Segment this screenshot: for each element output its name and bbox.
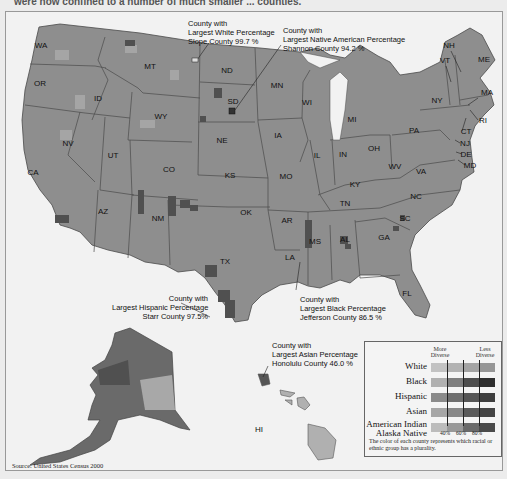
state-label-oh: OH — [368, 144, 380, 153]
state-label-ga: GA — [378, 233, 390, 242]
legend-swatch — [431, 363, 447, 372]
source-credit: Source: United States Census 2000 — [12, 462, 103, 469]
state-label-ut: UT — [108, 151, 119, 160]
slope-county-marker — [192, 58, 198, 62]
legend-swatch — [479, 378, 495, 387]
state-label-vt: VT — [440, 56, 450, 65]
state-label-nh: NH — [443, 41, 455, 50]
state-label-ar: AR — [281, 216, 292, 225]
state-label-ok: OK — [240, 208, 252, 217]
legend-swatch — [463, 408, 479, 417]
state-label-mn: MN — [271, 81, 284, 90]
state-label-nd: ND — [221, 66, 233, 75]
state-label-sd: SD — [227, 97, 238, 106]
state-label-tx: TX — [220, 257, 231, 266]
legend-swatch — [447, 408, 463, 417]
legend-swatch — [447, 378, 463, 387]
annotation-black: County with Largest Black Percentage Jef… — [300, 295, 386, 322]
legend-row-black: Black — [365, 377, 501, 391]
state-label-nj: NJ — [460, 139, 470, 148]
state-label-ca: CA — [27, 168, 39, 177]
state-label-ma: MA — [481, 88, 494, 97]
state-label-fl: FL — [402, 289, 412, 298]
legend-swatch — [463, 363, 479, 372]
state-label-va: VA — [416, 167, 427, 176]
state-label-ky: KY — [350, 180, 361, 189]
state-label-ne: NE — [216, 136, 227, 145]
state-label-ct: CT — [461, 127, 472, 136]
legend-swatch — [479, 408, 495, 417]
state-label-mt: MT — [144, 62, 156, 71]
legend-more-diverse: More Diverse — [425, 346, 455, 358]
legend-tick-40: 40% — [440, 430, 450, 436]
legend-swatch — [431, 393, 447, 402]
hawaii — [258, 374, 336, 460]
legend-tick-60: 60% — [456, 430, 466, 436]
state-label-al: AL — [340, 235, 350, 244]
state-label-hi: HI — [255, 425, 263, 434]
state-label-wi: WI — [302, 98, 312, 107]
state-label-de: DE — [460, 150, 471, 159]
state-label-ks: KS — [225, 171, 236, 180]
state-label-la: LA — [285, 253, 295, 262]
annotation-native: County with Largest Native American Perc… — [283, 26, 405, 53]
state-label-wa: WA — [35, 41, 48, 50]
legend-swatch — [447, 363, 463, 372]
legend-less-diverse: Less Diverse — [471, 346, 499, 358]
legend-swatch — [463, 378, 479, 387]
state-label-in: IN — [339, 150, 347, 159]
legend-note: The color of each county represents whic… — [369, 438, 497, 452]
legend-tick-line-40 — [447, 360, 448, 426]
annotation-white: County with Largest White Percentage Slo… — [188, 19, 275, 46]
state-label-mi: MI — [348, 115, 357, 124]
state-label-me: ME — [478, 55, 490, 64]
state-label-md: MD — [464, 161, 477, 170]
legend-tick-line-60 — [463, 360, 464, 426]
state-label-ri: RI — [479, 116, 487, 125]
legend-swatch — [431, 378, 447, 387]
state-label-sc: SC — [399, 214, 410, 223]
state-label-or: OR — [34, 79, 46, 88]
state-label-mo: MO — [280, 172, 293, 181]
legend-swatch — [479, 363, 495, 372]
state-label-tn: TN — [340, 199, 351, 208]
state-label-wy: WY — [155, 112, 169, 121]
legend-tick-80: 80% — [472, 430, 482, 436]
state-label-nc: NC — [410, 192, 422, 201]
annotation-hispanic: County with Largest Hispanic Percentage … — [112, 294, 208, 321]
legend-row-hispanic: Hispanic — [365, 392, 501, 406]
legend-tick-line-80 — [479, 360, 480, 426]
legend-row-white: White — [365, 362, 501, 376]
state-label-ny: NY — [431, 96, 443, 105]
shannon-county-marker — [229, 108, 235, 114]
legend-swatch — [479, 393, 495, 402]
state-label-ms: MS — [309, 237, 321, 246]
state-label-pa: PA — [409, 126, 420, 135]
legend-swatch — [463, 393, 479, 402]
state-label-nv: NV — [62, 139, 74, 148]
legend-swatch — [447, 393, 463, 402]
state-label-wv: WV — [389, 162, 403, 171]
state-label-id: ID — [94, 94, 102, 103]
state-label-co: CO — [163, 165, 175, 174]
legend-swatch — [431, 408, 447, 417]
annotation-asian: County with Largest Asian Percentage Hon… — [272, 341, 358, 368]
state-label-nm: NM — [152, 214, 165, 223]
state-label-il: IL — [314, 151, 321, 160]
state-label-az: AZ — [98, 207, 108, 216]
state-label-ia: IA — [274, 131, 282, 140]
legend: More Diverse Less Diverse White Black Hi… — [364, 341, 502, 457]
